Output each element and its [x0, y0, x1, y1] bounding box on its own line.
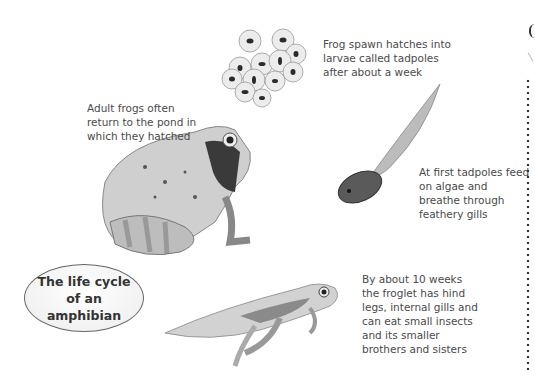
page-title-text: The life cycle of an amphibian	[34, 273, 134, 324]
page-edge-mark	[529, 24, 535, 38]
dotted-divider	[526, 78, 530, 370]
froglet-illustration	[160, 268, 360, 368]
tadpole-caption: At first tadpoles feed on algae and brea…	[419, 165, 531, 221]
froglet-caption: By about 10 weeks the froglet has hind l…	[362, 272, 482, 356]
frog-spawn-illustration	[220, 28, 320, 108]
adult-caption: Adult frogs often return to the pond in …	[87, 101, 202, 143]
page-edge-tick	[528, 52, 534, 61]
spawn-caption: Frog spawn hatches into larvae called ta…	[323, 37, 453, 79]
page-title: The life cycle of an amphibian	[24, 264, 144, 332]
